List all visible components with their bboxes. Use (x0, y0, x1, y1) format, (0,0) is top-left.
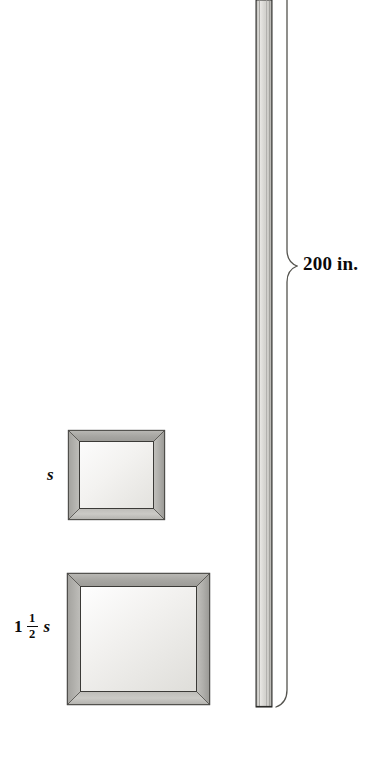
small-frame-interior (80, 442, 154, 509)
large-frame-bevel-top (68, 574, 210, 587)
small-picture-frame (69, 431, 165, 520)
brace-lower-arm (276, 266, 297, 707)
fraction-numerator: 1 (28, 612, 36, 626)
large-picture-frame (68, 574, 210, 705)
large-frame-side-label: 1 1 2 s (14, 612, 50, 641)
dimension-brace (276, 0, 297, 707)
small-frame-bevel-right (154, 431, 165, 520)
small-frame-bevel-bottom (69, 509, 165, 520)
fraction-denominator: 2 (28, 627, 36, 641)
small-frame-side-label: s (47, 466, 54, 483)
large-frame-bevel-bottom (68, 692, 210, 705)
molding-length-label: 200 in. (303, 254, 358, 273)
molding-strip (256, 0, 272, 707)
large-frame-bevel-right (197, 574, 210, 705)
brace-upper-arm (287, 0, 297, 266)
diagram-canvas (0, 0, 369, 782)
fraction-one-half: 1 2 (27, 612, 38, 641)
large-frame-interior (81, 587, 197, 692)
geometry-diagram: 200 in. s 1 1 2 s (0, 0, 369, 782)
mixed-number-whole-part: 1 (14, 618, 23, 635)
small-frame-bevel-top (69, 431, 165, 442)
small-frame-bevel-left (69, 431, 80, 520)
large-frame-bevel-left (68, 574, 81, 705)
large-frame-variable: s (44, 618, 51, 635)
